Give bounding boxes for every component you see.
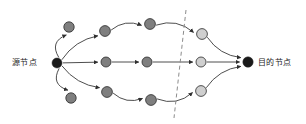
- top-stub-node[interactable]: [64, 22, 74, 32]
- source-node[interactable]: [52, 58, 62, 68]
- destination-node[interactable]: [243, 57, 253, 67]
- source-node-label: 源节点: [12, 59, 37, 67]
- diagram-canvas: 源节点 目的节点: [0, 0, 306, 124]
- top-node-2[interactable]: [145, 19, 156, 30]
- bottom-stub-node[interactable]: [66, 93, 76, 103]
- middle-node-3[interactable]: [196, 57, 206, 67]
- top-node-3[interactable]: [197, 29, 208, 40]
- middle-node-1[interactable]: [101, 57, 111, 67]
- bottom-node-2[interactable]: [146, 95, 157, 106]
- destination-node-label: 目的节点: [258, 59, 291, 67]
- top-node-1[interactable]: [100, 26, 111, 37]
- bottom-node-3[interactable]: [196, 86, 207, 97]
- bottom-node-1[interactable]: [102, 87, 113, 98]
- middle-node-2[interactable]: [142, 57, 152, 67]
